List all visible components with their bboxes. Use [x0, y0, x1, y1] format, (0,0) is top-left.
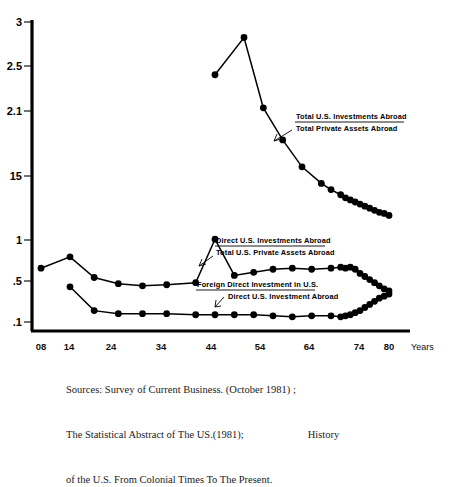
annotation-top-numerator: Total U.S. Investments Abroad: [296, 112, 407, 121]
caption-line-2-wrap: The Statistical Abstract of The US.(1981…: [66, 427, 426, 442]
series-layer: [38, 34, 393, 320]
x-tick-label-54: 54: [255, 341, 266, 352]
data-point: [270, 312, 277, 319]
caption-line-1: Sources: Survey of Current Business. (Oc…: [66, 382, 426, 397]
annotation-middle-numerator: Direct U.S. Investments Abroad: [216, 236, 331, 245]
caption-line-3: of the U.S. From Colonial Times To The P…: [66, 472, 426, 487]
data-point: [91, 307, 98, 314]
data-point: [192, 311, 199, 318]
caption-line-2-tail: History: [308, 427, 340, 442]
data-point: [38, 265, 45, 272]
x-tick-label-74: 74: [354, 341, 365, 352]
x-tick-label-64: 64: [304, 341, 315, 352]
annotation-bottom-numerator: Foreign Direct Investment in U.S.: [197, 280, 318, 289]
x-tick-label-34: 34: [156, 341, 167, 352]
y-tick-label-05: .5: [13, 275, 22, 287]
data-point: [328, 186, 335, 193]
data-point: [328, 312, 335, 319]
y-tick-label-3: 3: [16, 16, 22, 28]
data-point: [308, 266, 315, 273]
annotation-top: Total U.S. Investments Abroad Total Priv…: [274, 112, 407, 141]
y-tick-label-01: .1: [13, 316, 22, 328]
data-point: [212, 71, 219, 78]
data-point: [212, 311, 219, 318]
y-tick-label-15: 15: [10, 170, 22, 182]
data-point: [386, 212, 393, 219]
annotation-bottom-denominator: Direct U.S. Investment Abroad: [228, 292, 339, 301]
x-tick-label-24: 24: [106, 341, 117, 352]
annotation-middle: Direct U.S. Investments Abroad Total U.S…: [199, 236, 335, 266]
data-point: [250, 311, 257, 318]
data-point: [231, 311, 238, 318]
data-point: [67, 283, 74, 290]
data-point: [91, 274, 98, 281]
data-point: [67, 253, 74, 260]
y-tick-label-1: 1: [16, 234, 22, 246]
data-point: [386, 291, 393, 298]
annotation-middle-denominator: Total U.S. Private Assets Abroad: [216, 248, 335, 257]
y-tick-label-2_5: 2.5: [7, 60, 22, 72]
x-ticks-group: 08 14 24 34 44 54 64 74 80 Years: [36, 341, 434, 352]
data-point: [318, 180, 325, 187]
caption-line-2: The Statistical Abstract of The US.(1981…: [66, 429, 244, 440]
data-point: [250, 269, 257, 276]
data-point: [139, 282, 146, 289]
y-ticks-group: 3 2.5 2.1 15 1 .5 .1: [7, 16, 32, 328]
data-point: [270, 266, 277, 273]
y-tick-label-2_1: 2.1: [7, 105, 22, 117]
data-point: [115, 280, 122, 287]
annotation-bottom: Foreign Direct Investment in U.S. Direct…: [196, 280, 339, 307]
x-tick-label-44: 44: [206, 341, 217, 352]
data-point: [299, 163, 306, 170]
data-point: [308, 312, 315, 319]
data-point: [139, 310, 146, 317]
data-point: [163, 281, 170, 288]
data-point: [260, 104, 267, 111]
annotation-top-denominator: Total Private Assets Abroad: [296, 124, 398, 133]
data-point: [163, 310, 170, 317]
source-caption: Sources: Survey of Current Business. (Oc…: [66, 352, 426, 487]
x-tick-label-14: 14: [64, 341, 75, 352]
annotation-bottom-leader-line: [215, 297, 224, 307]
data-point: [289, 313, 296, 320]
data-point: [231, 272, 238, 279]
data-point: [241, 34, 248, 41]
data-point: [289, 265, 296, 272]
x-tick-label-08: 08: [36, 341, 47, 352]
data-point: [115, 310, 122, 317]
data-point: [328, 265, 335, 272]
x-tick-label-80: 80: [384, 341, 395, 352]
x-axis-title: Years: [411, 342, 434, 352]
